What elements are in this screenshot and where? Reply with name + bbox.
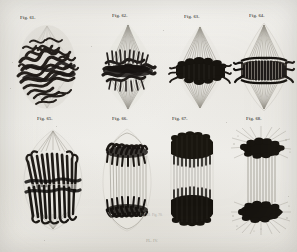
plate-caption: PL. IV. — [146, 238, 158, 243]
figure-label-fig-64: Fig. 64. — [249, 13, 265, 18]
figure-fig-65: Fig. 65. — [16, 116, 90, 236]
figure-label-fig-68: Fig. 68. — [246, 116, 262, 121]
stray-mark-right: Fig. 70. — [152, 213, 162, 217]
figure-fig-61: Fig. 61. — [8, 14, 86, 110]
figure-label-fig-63: Fig. 63. — [184, 14, 200, 19]
figure-fig-68: Fig. 68. — [228, 116, 294, 236]
figure-label-fig-61: Fig. 61. — [20, 15, 36, 20]
figure-label-fig-66: Fig. 66. — [112, 116, 128, 121]
figure-artwork-fig-61 — [8, 22, 86, 112]
figure-label-fig-65: Fig. 65. — [37, 116, 53, 121]
figure-artwork-fig-65 — [16, 126, 90, 234]
paper-speck — [91, 46, 92, 47]
paper-speck — [163, 30, 164, 31]
figure-artwork-fig-64 — [234, 21, 294, 113]
figure-artwork-fig-62 — [95, 21, 161, 113]
figure-fig-66: Fig. 66. — [96, 116, 158, 236]
figure-artwork-fig-63 — [168, 22, 232, 112]
figure-fig-67: Fig. 67. — [161, 116, 223, 236]
figure-artwork-fig-68 — [228, 126, 294, 236]
figure-fig-64: Fig. 64. — [234, 13, 294, 111]
figure-fig-63: Fig. 63. — [168, 14, 232, 110]
figure-artwork-fig-67 — [161, 126, 223, 234]
paper-speck — [226, 122, 227, 123]
figure-label-fig-67: Fig. 67. — [172, 116, 188, 121]
stray-mark-left: Fig. 69. — [140, 213, 150, 217]
figure-label-fig-62: Fig. 62. — [112, 13, 128, 18]
paper-speck — [44, 240, 45, 241]
figure-artwork-fig-66 — [96, 126, 158, 234]
illustration-plate: Fig. 61. — [0, 0, 297, 252]
figure-fig-62: Fig. 62. — [95, 13, 161, 111]
